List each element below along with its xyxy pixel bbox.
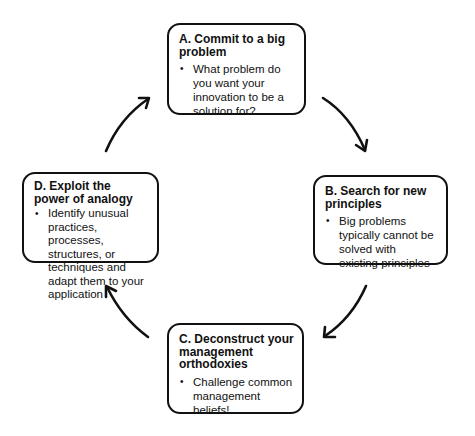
arrow-b-to-c-icon (324, 286, 366, 337)
arrow-d-to-a-icon (106, 98, 149, 151)
arrow-a-to-b-icon (323, 98, 367, 151)
cycle-arrows (0, 0, 475, 436)
arrow-c-to-d-icon (106, 286, 148, 337)
